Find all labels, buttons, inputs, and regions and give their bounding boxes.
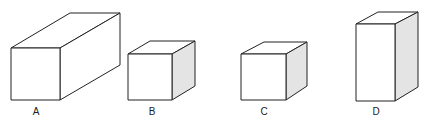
box-a-label: A <box>33 106 40 117</box>
box-d-shape <box>356 12 418 101</box>
boxes-figure: A B C D <box>0 0 428 122</box>
box-c-shape <box>241 42 307 100</box>
box-d-label: D <box>372 106 379 117</box>
box-b-label: B <box>149 106 156 117</box>
box-a-shape <box>11 13 120 100</box>
box-c-label: C <box>260 106 267 117</box>
box-b-shape <box>128 41 195 100</box>
boxes-drawing <box>0 0 428 122</box>
